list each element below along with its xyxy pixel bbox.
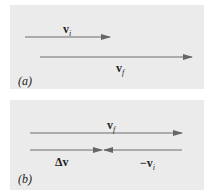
delta-v-label: Δv — [55, 156, 69, 168]
panel-a-arrows — [10, 5, 204, 89]
panel-a: vi vf (a) — [10, 5, 204, 89]
panel-b-caption: (b) — [18, 173, 32, 185]
panel-a-caption: (a) — [18, 75, 32, 87]
panel-b-arrows — [10, 100, 204, 190]
neg-vi-label: −vi — [140, 157, 155, 172]
panel-b: vf Δv −vi (b) — [10, 100, 204, 190]
vf-label: vf — [116, 62, 124, 77]
vi-label: vi — [63, 23, 71, 38]
vf-label-b: vf — [107, 119, 115, 134]
